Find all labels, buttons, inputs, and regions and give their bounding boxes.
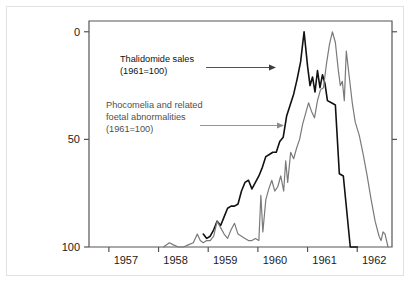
series-line-phocomelia (164, 32, 389, 247)
x-tick-label-1958: 1958 (163, 254, 187, 266)
y-tick-label-0: 100 (62, 241, 80, 253)
annotation-thalidomide-line1: Thalidomide sales (120, 54, 194, 64)
annotation-phocomelia-line2: foetal abnormalities (106, 112, 186, 122)
annotation-phocomelia: Phocomelia and related foetal abnormalit… (106, 100, 284, 134)
annotation-thalidomide-arrowhead (269, 65, 276, 71)
x-axis-tick-labels: 195719581959196019611962 (114, 254, 387, 266)
x-tick-label-1959: 1959 (213, 254, 237, 266)
y-tick-label-100: 0 (74, 26, 80, 38)
x-tick-label-1960: 1960 (263, 254, 287, 266)
x-tick-label-1962: 1962 (362, 254, 386, 266)
annotation-thalidomide-line2: (1961=100) (120, 66, 167, 76)
y-axis-ticks (84, 32, 89, 247)
annotation-phocomelia-arrowhead (277, 123, 284, 129)
x-tick-label-1957: 1957 (114, 254, 138, 266)
data-series-layer (164, 32, 389, 247)
x-tick-label-1961: 1961 (312, 254, 336, 266)
y-axis-tick-labels: 100500 (62, 26, 80, 253)
annotation-phocomelia-line1: Phocomelia and related (106, 100, 203, 110)
series-line-thalidomide (203, 32, 357, 247)
y-axis-ticks-right (392, 32, 397, 140)
chart-canvas: 100500 195719581959196019611962 Thalidom… (0, 0, 412, 284)
annotation-phocomelia-line3: (1961=100) (106, 124, 153, 134)
annotation-thalidomide: Thalidomide sales (1961=100) (120, 54, 276, 76)
x-axis-ticks (109, 247, 357, 252)
y-tick-label-50: 50 (68, 133, 80, 145)
chart-figure: 100500 195719581959196019611962 Thalidom… (0, 0, 412, 284)
